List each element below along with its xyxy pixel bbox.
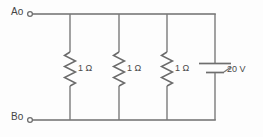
branch-resistor-3 bbox=[162, 14, 173, 120]
resistor-1-value-label: 1 Ω bbox=[78, 63, 92, 73]
resistor-3-value-label: 1 Ω bbox=[175, 63, 189, 73]
bottom-rail-group bbox=[28, 118, 215, 123]
branch-resistor-2 bbox=[114, 14, 125, 120]
voltage-source-value-label: 20 V bbox=[227, 64, 246, 74]
circuit-diagram: Ao Bo 1 Ω 1 Ω 1 Ω 20 V bbox=[0, 0, 263, 137]
terminal-a-node-circle bbox=[28, 12, 33, 17]
r3-zigzag-icon bbox=[162, 52, 173, 86]
terminal-b-node-circle bbox=[28, 118, 33, 123]
terminal-a-label: Ao bbox=[11, 7, 23, 17]
resistor-2-value-label: 1 Ω bbox=[127, 63, 141, 73]
top-rail-group bbox=[28, 12, 215, 17]
r1-zigzag-icon bbox=[65, 52, 76, 86]
branch-resistor-1 bbox=[65, 14, 76, 120]
terminal-b-label: Bo bbox=[11, 112, 23, 122]
r2-zigzag-icon bbox=[114, 52, 125, 86]
